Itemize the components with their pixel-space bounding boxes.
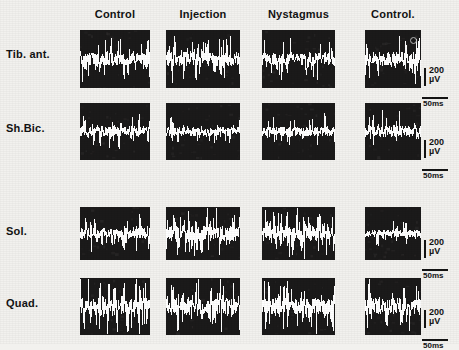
emg-trace-quad-injection <box>166 278 240 335</box>
trace-panel-sh-bic-nystagmus <box>262 103 335 160</box>
emg-trace-sh-bic-injection <box>166 103 240 160</box>
scalebar-amplitude-unit: µV <box>429 317 444 326</box>
scalebar-amplitude-label: 200µV <box>429 308 444 326</box>
row-label-tib-ant: Tib. ant. <box>6 48 50 60</box>
scalebar-amplitude-label: 200µV <box>429 66 444 84</box>
emg-trace-sh-bic-control-2 <box>365 103 421 160</box>
emg-trace-sol-injection <box>166 207 240 260</box>
emg-trace-sol-control-1 <box>80 207 150 260</box>
scalebar-amplitude-tick <box>424 140 426 158</box>
row-label-quad: Quad. <box>6 297 38 309</box>
trace-panel-quad-control-1 <box>80 278 150 335</box>
scalebar-amplitude-unit: µV <box>429 147 444 156</box>
scalebar-amplitude-unit: µV <box>429 247 444 256</box>
trace-panel-tib-ant-nystagmus <box>262 30 335 88</box>
emg-trace-sh-bic-nystagmus <box>262 103 335 160</box>
scalebar-amplitude-label: 200µV <box>429 138 444 156</box>
trace-panel-sol-control-1 <box>80 207 150 260</box>
trace-panel-sol-control-2 <box>365 207 421 260</box>
row-label-sh-bic: Sh.Bic. <box>6 122 45 134</box>
trace-panel-sol-nystagmus <box>262 207 335 260</box>
scalebar-time-label: 50ms <box>423 271 443 280</box>
trace-panel-sh-bic-control-2 <box>365 103 421 160</box>
trace-panel-quad-injection <box>166 278 240 335</box>
scalebar-time-label: 50ms <box>423 341 443 350</box>
row-label-sol: Sol. <box>6 225 27 237</box>
column-header-control-2: Control. <box>345 8 441 20</box>
trace-panel-tib-ant-injection <box>166 30 240 88</box>
trace-panel-quad-nystagmus <box>262 278 335 335</box>
trace-panel-sol-injection <box>166 207 240 260</box>
emg-trace-quad-control-2 <box>365 278 421 335</box>
trace-panel-sh-bic-injection <box>166 103 240 160</box>
scalebar-amplitude-tick <box>424 68 426 86</box>
emg-trace-sol-control-2 <box>365 207 421 260</box>
trace-panel-sh-bic-control-1 <box>80 103 150 160</box>
emg-trace-tib-ant-nystagmus <box>262 30 335 88</box>
trace-panel-tib-ant-control-1 <box>80 30 150 88</box>
scalebar-amplitude-label: 200µV <box>429 238 444 256</box>
emg-trace-tib-ant-injection <box>166 30 240 88</box>
column-header-nystagmus: Nystagmus <box>242 8 355 20</box>
scalebar-amplitude-tick <box>424 310 426 328</box>
emg-trace-tib-ant-control-1 <box>80 30 150 88</box>
scalebar-time-label: 50ms <box>423 99 443 108</box>
emg-trace-sol-nystagmus <box>262 207 335 260</box>
scalebar-time-label: 50ms <box>423 171 443 180</box>
scalebar-amplitude-unit: µV <box>429 75 444 84</box>
scalebar-amplitude-tick <box>424 240 426 258</box>
emg-trace-quad-control-1 <box>80 278 150 335</box>
trace-panel-quad-control-2 <box>365 278 421 335</box>
emg-trace-quad-nystagmus <box>262 278 335 335</box>
emg-trace-sh-bic-control-1 <box>80 103 150 160</box>
lens-artifact-dot <box>410 37 417 44</box>
